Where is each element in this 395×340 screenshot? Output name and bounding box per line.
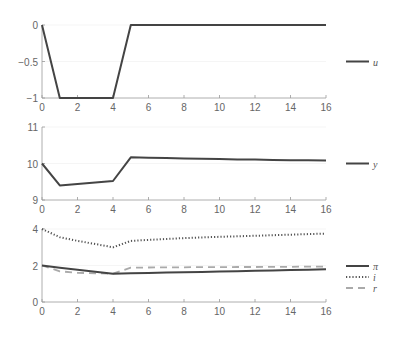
x-tick-label: 14 — [285, 306, 297, 317]
y-tick-label: 0 — [32, 20, 38, 31]
legend-label-r: r — [373, 283, 377, 294]
x-tick-label: 16 — [320, 204, 332, 215]
legend-label-u: u — [373, 57, 378, 68]
panel-top: 0246810121416−1−0.50u — [18, 20, 378, 113]
x-tick-label: 14 — [285, 204, 297, 215]
legend-label-y: y — [372, 159, 378, 170]
x-tick-label: 4 — [110, 102, 116, 113]
x-tick-label: 2 — [75, 102, 81, 113]
y-tick-label: −1 — [27, 93, 39, 104]
x-tick-label: 10 — [214, 306, 226, 317]
x-tick-label: 2 — [75, 306, 81, 317]
x-tick-label: 6 — [146, 102, 152, 113]
panel-bottom: 0246810121416024πir — [32, 224, 379, 317]
panel-middle: 024681012141691011y — [27, 122, 378, 215]
x-tick-label: 0 — [39, 204, 45, 215]
x-tick-label: 0 — [39, 102, 45, 113]
y-tick-label: 9 — [32, 195, 38, 206]
x-tick-label: 6 — [146, 306, 152, 317]
chart-canvas: 0246810121416−1−0.50u024681012141691011y… — [0, 0, 395, 340]
x-tick-label: 6 — [146, 204, 152, 215]
x-tick-label: 10 — [214, 204, 226, 215]
x-tick-label: 4 — [110, 306, 116, 317]
series-line-y — [42, 157, 326, 185]
y-tick-label: 10 — [27, 159, 39, 170]
y-tick-label: 2 — [32, 261, 38, 272]
x-tick-label: 16 — [320, 102, 332, 113]
y-tick-label: 11 — [28, 122, 39, 133]
x-tick-label: 16 — [320, 306, 332, 317]
series-line-i — [42, 229, 326, 247]
legend-label-π: π — [373, 261, 379, 272]
x-tick-label: 4 — [110, 204, 116, 215]
x-tick-label: 8 — [181, 102, 187, 113]
y-tick-label: 0 — [32, 297, 38, 308]
x-tick-label: 14 — [285, 102, 297, 113]
x-tick-label: 12 — [249, 102, 261, 113]
y-tick-label: −0.5 — [18, 57, 38, 68]
x-tick-label: 12 — [249, 306, 261, 317]
x-tick-label: 12 — [249, 204, 261, 215]
y-tick-label: 4 — [32, 224, 38, 235]
x-tick-label: 8 — [181, 204, 187, 215]
x-tick-label: 0 — [39, 306, 45, 317]
x-tick-label: 2 — [75, 204, 81, 215]
impulse-response-figure: 0246810121416−1−0.50u024681012141691011y… — [0, 0, 395, 340]
x-tick-label: 8 — [181, 306, 187, 317]
x-tick-label: 10 — [214, 102, 226, 113]
legend-label-i: i — [373, 272, 376, 283]
